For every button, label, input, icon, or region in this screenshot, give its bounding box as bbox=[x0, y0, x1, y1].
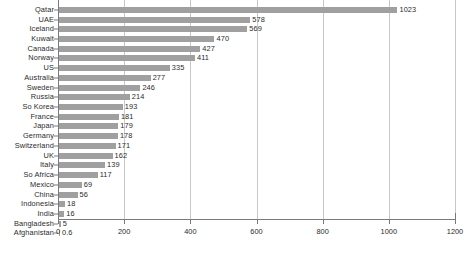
category-label: Switzerland bbox=[15, 142, 54, 149]
x-axis-tick bbox=[257, 219, 258, 224]
bar-value-label: 193 bbox=[125, 103, 138, 110]
bar-row: Afghanistan0.6 bbox=[0, 229, 473, 239]
category-tick bbox=[54, 58, 58, 59]
bar bbox=[59, 162, 105, 168]
category-label: Qatar bbox=[35, 6, 54, 13]
bar bbox=[59, 55, 195, 61]
x-axis-tick bbox=[323, 219, 324, 224]
bar bbox=[59, 75, 151, 81]
bar bbox=[59, 143, 116, 149]
bar-row: Qatar1023 bbox=[0, 5, 473, 15]
bar-row: Norway411 bbox=[0, 54, 473, 64]
bar-row: So Africa117 bbox=[0, 170, 473, 180]
bar-value-label: 181 bbox=[121, 113, 134, 120]
category-tick bbox=[54, 87, 58, 88]
x-axis-tick-label: 200 bbox=[118, 228, 130, 235]
bar-value-label: 69 bbox=[84, 181, 92, 188]
bar-value-label: 470 bbox=[216, 35, 229, 42]
category-label: Canada bbox=[28, 45, 55, 52]
category-label: So Africa bbox=[24, 171, 54, 178]
bar-row: UK162 bbox=[0, 151, 473, 161]
category-tick bbox=[54, 97, 58, 98]
bar bbox=[59, 36, 214, 42]
bar-row: Russia214 bbox=[0, 92, 473, 102]
bar-row: Indonesia18 bbox=[0, 199, 473, 209]
bar bbox=[59, 153, 113, 159]
bar-row: So Korea193 bbox=[0, 102, 473, 112]
bar-value-label: 246 bbox=[142, 84, 155, 91]
bar-row: Sweden246 bbox=[0, 83, 473, 93]
category-label: Russia bbox=[31, 94, 54, 101]
bar-value-label: 117 bbox=[100, 171, 112, 178]
category-tick bbox=[54, 184, 58, 185]
category-label: US bbox=[44, 64, 54, 71]
x-axis-tick-label: 600 bbox=[250, 228, 262, 235]
bar bbox=[59, 192, 78, 198]
bar-row: China56 bbox=[0, 190, 473, 200]
category-tick bbox=[54, 39, 58, 40]
category-tick bbox=[54, 19, 58, 20]
bar bbox=[59, 221, 61, 227]
bar-value-label: 139 bbox=[107, 162, 120, 169]
bar bbox=[59, 201, 65, 207]
bar-value-label: 277 bbox=[153, 74, 166, 81]
bar-chart: Qatar1023UAE578Iceland569Kuwait470Canada… bbox=[0, 0, 473, 254]
bar bbox=[59, 85, 140, 91]
bar-value-label: 214 bbox=[132, 94, 145, 101]
x-axis-tick bbox=[58, 219, 59, 224]
bar bbox=[59, 17, 250, 23]
category-tick bbox=[54, 155, 58, 156]
bar-row: Switzerland171 bbox=[0, 141, 473, 151]
bar-row: India16 bbox=[0, 209, 473, 219]
category-tick bbox=[54, 116, 58, 117]
category-label: UK bbox=[44, 152, 54, 159]
category-tick bbox=[54, 165, 58, 166]
bar bbox=[59, 182, 82, 188]
bar-value-label: 18 bbox=[67, 201, 75, 208]
category-tick bbox=[54, 145, 58, 146]
bar-row: Australia277 bbox=[0, 73, 473, 83]
x-axis-tick-label: 0 bbox=[56, 228, 60, 235]
x-axis-tick bbox=[124, 219, 125, 224]
bar bbox=[59, 133, 118, 139]
category-label: So Korea bbox=[22, 103, 54, 110]
category-label: Iceland bbox=[29, 26, 54, 33]
bar-value-label: 578 bbox=[252, 16, 265, 23]
bar-value-label: 0.6 bbox=[62, 230, 73, 237]
category-tick bbox=[54, 29, 58, 30]
category-label: Mexico bbox=[30, 181, 54, 188]
category-label: Japan bbox=[33, 123, 54, 130]
bar-value-label: 335 bbox=[172, 64, 185, 71]
bar bbox=[59, 26, 247, 32]
category-label: Germany bbox=[23, 133, 54, 140]
bar-row: Mexico69 bbox=[0, 180, 473, 190]
bar-value-label: 178 bbox=[120, 133, 133, 140]
x-axis-tick bbox=[190, 219, 191, 224]
category-label: Sweden bbox=[27, 84, 54, 91]
bar-value-label: 1023 bbox=[399, 6, 416, 13]
bar-row: UAE578 bbox=[0, 15, 473, 25]
category-tick bbox=[54, 77, 58, 78]
category-label: Norway bbox=[28, 55, 54, 62]
bar bbox=[59, 7, 397, 13]
category-label: Afghanistan bbox=[14, 230, 54, 237]
bar bbox=[59, 94, 130, 100]
bar-value-label: 5 bbox=[63, 220, 67, 227]
x-axis-tick-label: 1200 bbox=[447, 228, 463, 235]
bar bbox=[59, 172, 98, 178]
bar-value-label: 162 bbox=[115, 152, 128, 159]
category-label: Indonesia bbox=[21, 201, 54, 208]
bar-row: Germany178 bbox=[0, 131, 473, 141]
x-axis-tick-label: 400 bbox=[184, 228, 196, 235]
bar-value-label: 16 bbox=[66, 210, 74, 217]
bar bbox=[59, 65, 170, 71]
bar bbox=[59, 123, 118, 129]
category-tick bbox=[54, 126, 58, 127]
bar-row: US335 bbox=[0, 63, 473, 73]
bar-value-label: 569 bbox=[249, 26, 262, 33]
bar-row: Japan179 bbox=[0, 122, 473, 132]
bar-value-label: 171 bbox=[118, 142, 131, 149]
category-tick bbox=[54, 48, 58, 49]
x-axis-tick bbox=[455, 219, 456, 224]
category-tick bbox=[54, 213, 58, 214]
